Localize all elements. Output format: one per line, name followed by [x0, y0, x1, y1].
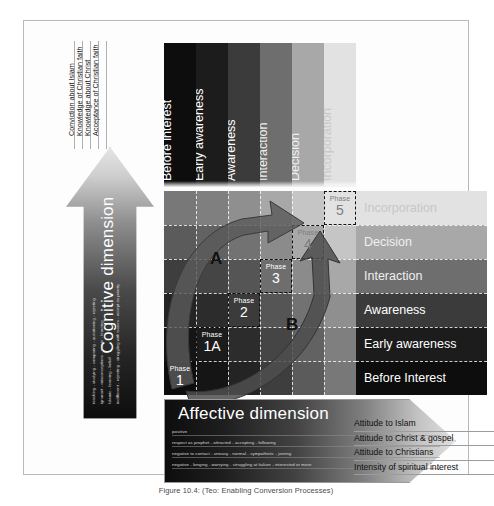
column-header-5: Incorporation [324, 43, 356, 187]
phase-label-word: Phase [324, 195, 356, 202]
row-label-text: Awareness [364, 303, 426, 317]
column-header-2: Awareness [228, 43, 260, 187]
cognitive-subscale-1: ignorant - misconceptions - aware - lear… [99, 320, 104, 404]
phase-label-number: 1A [196, 339, 228, 353]
row-divider [356, 293, 487, 294]
row-divider [356, 361, 487, 362]
column-header-label: Before interest [164, 100, 174, 181]
row-label-text: Incorporation [364, 201, 437, 215]
cognitive-dimension-arrow: Cognitive dimension teaching - studying … [66, 147, 154, 419]
row-label-1: Early awareness [356, 327, 487, 361]
row-label-text: Before Interest [364, 371, 446, 385]
phase-label-1A: Phase1A [196, 331, 228, 353]
column-header-0: Before interest [164, 43, 196, 187]
row-label-3: Interaction [356, 259, 487, 293]
phase-label-number: 3 [260, 271, 292, 285]
leader-line-4 [106, 41, 107, 149]
cognitive-subscale-2: Islamic - learning - belief [107, 357, 112, 404]
cognitive-label-3: Acceptance of Christian faith [91, 45, 100, 137]
torn-edge [292, 181, 324, 187]
cognitive-subscale-3: indifferent - rejecting - struggling wit… [115, 284, 120, 404]
phase-label-number: 1 [164, 373, 196, 387]
column-header-label: Decision [292, 133, 302, 181]
column-header-3: Interaction [260, 43, 292, 187]
torn-edge [324, 181, 356, 187]
torn-edge [164, 181, 196, 187]
row-label-text: Decision [364, 235, 412, 249]
phase-label-word: Phase [164, 365, 196, 372]
affective-subscale-3: negative - longing - worrying - struggli… [172, 462, 311, 467]
row-divider [356, 259, 487, 260]
affective-dimension-title: Affective dimension [178, 404, 329, 424]
affective-label-3: Intensity of spiritual interest [354, 460, 494, 476]
conversion-matrix: A B Phase1Phase1APhase2Phase3Phase4Phase… [164, 191, 356, 395]
affective-label-2: Attitude to Christians [354, 445, 494, 461]
torn-edge [260, 181, 292, 187]
affective-label-column: Attitude to Islam Attitude to Christ & g… [354, 416, 494, 476]
phase-label-3: Phase3 [260, 263, 292, 285]
column-header-4: Decision [292, 43, 324, 187]
row-label-0: Before Interest [356, 361, 487, 395]
phase-label-4: Phase4 [292, 229, 324, 251]
arrow-b-label: B [286, 315, 298, 335]
phase-label-word: Phase [196, 331, 228, 338]
row-label-text: Early awareness [364, 337, 456, 351]
column-header-label: Interaction [260, 123, 270, 181]
affective-subscale-2: negative to contact - uneasy - normal - … [172, 451, 291, 456]
affective-label-1: Attitude to Christ & gospel [354, 431, 494, 447]
phase-label-word: Phase [260, 263, 292, 270]
torn-edge [196, 181, 228, 187]
figure-caption: Figure 10.4: (Teo: Enabling Conversion P… [0, 486, 492, 495]
cognitive-subscale-0: teaching - studying - comparing - questi… [91, 298, 96, 404]
phase-label-5: Phase5 [324, 195, 356, 217]
affective-subscale-1: respect as prophet - attracted - accepti… [172, 440, 276, 445]
affective-subscale-0: positive [172, 429, 187, 434]
phase-label-2: Phase2 [228, 297, 260, 319]
phase-label-number: 2 [228, 305, 260, 319]
column-header-label: Early awareness [196, 89, 206, 181]
phase-label-number: 4 [292, 237, 324, 251]
column-header-band: Before interestEarly awarenessAwarenessI… [164, 43, 356, 187]
phase-label-word: Phase [292, 229, 324, 236]
affective-label-0: Attitude to Islam [354, 416, 494, 432]
row-divider [356, 225, 487, 226]
arrow-a-label: A [210, 249, 222, 269]
row-label-4: Decision [356, 225, 487, 259]
column-header-label: Incorporation [324, 108, 334, 181]
column-header-1: Early awareness [196, 43, 228, 187]
row-label-text: Interaction [364, 269, 422, 283]
phase-label-word: Phase [228, 297, 260, 304]
phase-label-1: Phase1 [164, 365, 196, 387]
row-divider [356, 327, 487, 328]
row-label-column: Before InterestEarly awarenessAwarenessI… [356, 191, 487, 395]
diagram-frame: Cognitive dimension teaching - studying … [23, 20, 469, 475]
row-label-2: Awareness [356, 293, 487, 327]
phase-label-number: 5 [324, 203, 356, 217]
row-label-5: Incorporation [356, 191, 487, 225]
torn-edge [228, 181, 260, 187]
column-header-label: Awareness [228, 119, 238, 181]
